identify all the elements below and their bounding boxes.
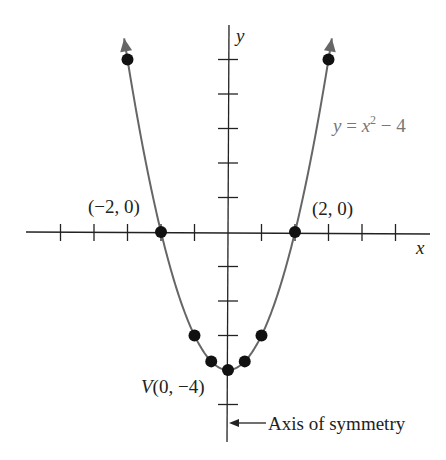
curve-arrow-right-icon	[324, 38, 336, 52]
data-point	[289, 226, 301, 238]
data-point	[222, 364, 234, 376]
data-point	[323, 54, 335, 66]
root-left-label: (−2, 0)	[88, 196, 140, 218]
data-point	[122, 54, 134, 66]
equation-eq: =	[341, 115, 361, 136]
vertex-label: V(0, −4)	[141, 376, 204, 398]
equation-y: y	[331, 115, 342, 136]
data-point	[155, 226, 167, 238]
parabola-chart: x y y = x2 − 4 (−2, 0) (2, 0) V(0, −4) A…	[0, 0, 446, 460]
data-point	[205, 355, 217, 367]
vertex-coords: (0, −4)	[153, 376, 205, 398]
curve-arrow-left-icon	[120, 38, 132, 52]
arrow-left-icon	[229, 419, 239, 427]
data-point	[189, 330, 201, 342]
axis-of-symmetry-label: Axis of symmetry	[268, 413, 406, 434]
y-axis-label: y	[234, 25, 245, 46]
equation-label: y = x2 − 4	[331, 113, 406, 136]
data-point	[239, 355, 251, 367]
equation-rest: − 4	[376, 115, 406, 136]
data-point	[256, 330, 268, 342]
x-axis-label: x	[415, 237, 425, 258]
root-right-label: (2, 0)	[312, 198, 353, 220]
